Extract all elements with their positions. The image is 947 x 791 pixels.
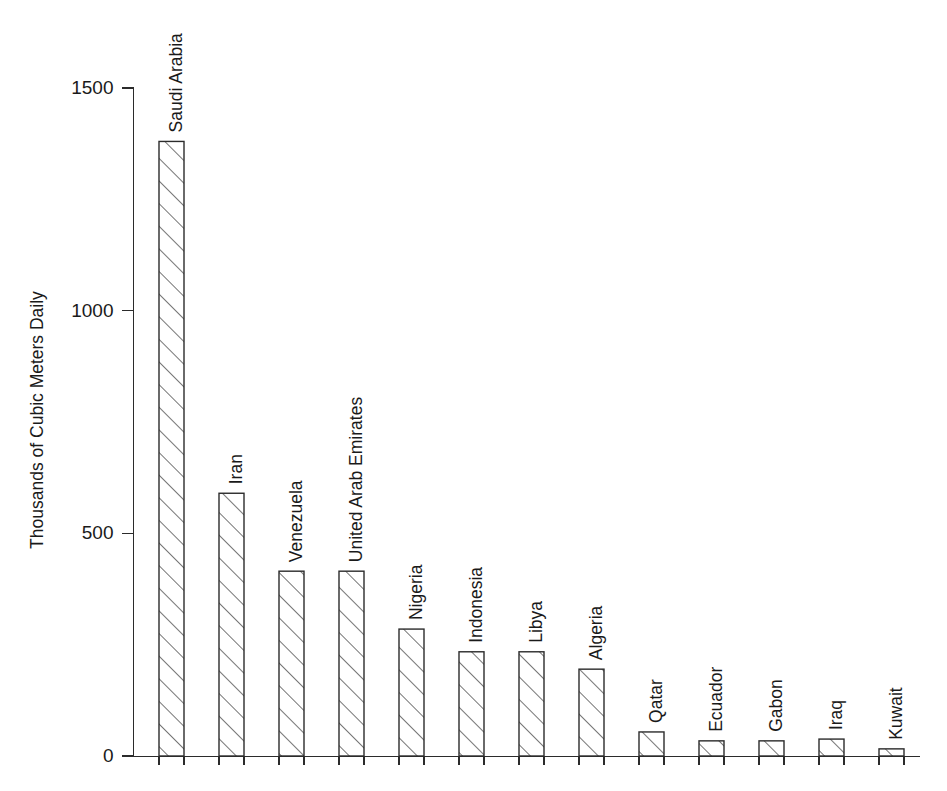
bar-label: Gabon (766, 679, 786, 732)
bar (879, 749, 904, 756)
bar (219, 493, 244, 756)
bar-label: Algeria (586, 605, 606, 660)
chart-canvas: Saudi ArabiaIranVenezuelaUnited Arab Emi… (0, 0, 947, 791)
y-tick-group: 050010001500 (71, 77, 133, 766)
bar-label: Libya (526, 601, 546, 643)
bar-label: Venezuela (286, 480, 306, 562)
bar-label: Iran (226, 454, 246, 484)
y-tick-label: 500 (82, 522, 114, 543)
bar-label: Kuwait (886, 687, 906, 740)
bar (819, 739, 844, 756)
y-tick-label: 1500 (71, 77, 113, 98)
bar (699, 741, 724, 756)
bar-label: Qatar (646, 679, 666, 723)
bar (279, 571, 304, 756)
bar (339, 571, 364, 756)
bar (519, 652, 544, 756)
bar (759, 741, 784, 756)
bar-label: Iraq (826, 700, 846, 730)
y-tick-label: 0 (103, 745, 114, 766)
y-tick-label: 1000 (71, 300, 113, 321)
bar (639, 732, 664, 756)
bar-series (159, 141, 904, 756)
x-axis (134, 756, 921, 765)
y-axis: 050010001500 (71, 77, 133, 766)
bar (459, 652, 484, 756)
bar-label: Saudi Arabia (166, 33, 186, 133)
bar (399, 629, 424, 756)
bar (159, 141, 184, 756)
bar-label: Nigeria (406, 564, 426, 620)
bar-chart: Saudi ArabiaIranVenezuelaUnited Arab Emi… (0, 0, 947, 791)
y-axis-title: Thousands of Cubic Meters Daily (27, 291, 47, 549)
bar-label: Ecuador (706, 667, 726, 732)
bar-label: United Arab Emirates (346, 397, 366, 563)
bar (579, 669, 604, 756)
bar-label-group: Saudi ArabiaIranVenezuelaUnited Arab Emi… (166, 33, 906, 740)
bar-label: Indonesia (466, 567, 486, 643)
x-tick-group (159, 756, 904, 765)
